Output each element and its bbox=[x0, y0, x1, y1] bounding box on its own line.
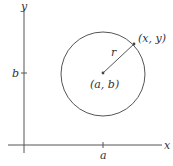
circle-diagram: y x b a r (a, b) (x, y) bbox=[0, 0, 173, 166]
center-point bbox=[102, 72, 105, 75]
radius-line bbox=[103, 44, 134, 73]
x-tick-label: a bbox=[100, 149, 107, 162]
y-tick-label: b bbox=[12, 67, 19, 80]
x-axis-label: x bbox=[164, 139, 171, 152]
y-axis-label: y bbox=[20, 0, 28, 13]
circle-point bbox=[133, 43, 136, 46]
point-label: (x, y) bbox=[138, 32, 166, 45]
radius-label: r bbox=[111, 46, 117, 59]
center-label: (a, b) bbox=[90, 78, 119, 91]
